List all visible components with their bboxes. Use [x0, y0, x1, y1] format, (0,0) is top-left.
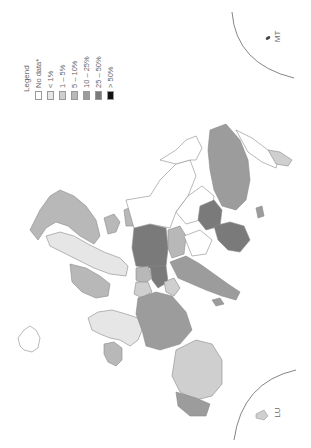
region-germany — [132, 224, 168, 268]
region-belarus-ukraine — [160, 136, 202, 164]
legend-label: 25 – 50% — [94, 56, 103, 88]
legend-swatch — [95, 91, 102, 100]
legend-swatch — [59, 91, 66, 100]
legend-item-lt1: < 1% — [46, 40, 58, 100]
legend: Legend No data* < 1% 1 – 5% 5 – 10% 10 –… — [22, 40, 122, 100]
legend-swatch — [71, 91, 78, 100]
legend-label: No data* — [34, 59, 43, 88]
legend-item-no-data: No data* — [34, 40, 46, 100]
region-italy — [170, 256, 240, 300]
legend-swatch — [107, 91, 114, 100]
region-bulgaria-greece — [214, 222, 250, 252]
lu-region — [256, 410, 268, 420]
legend-label: > 50% — [106, 67, 115, 88]
legend-item-10-25: 10 – 25% — [82, 40, 94, 100]
region-iceland — [18, 326, 40, 352]
region-czech — [168, 226, 186, 258]
legend-item-25-50: 25 – 50% — [94, 40, 106, 100]
legend-swatch — [35, 91, 42, 100]
mt-inset-arc — [232, 12, 294, 78]
inset-label-lu: LU — [273, 407, 282, 417]
region-france — [136, 292, 192, 350]
legend-item-5-10: 5 – 10% — [70, 40, 82, 100]
legend-label: < 1% — [46, 71, 55, 88]
region-cyprus — [256, 206, 264, 218]
legend-title: Legend — [22, 65, 31, 92]
legend-label: 10 – 25% — [82, 56, 91, 88]
legend-item-1-5: 1 – 5% — [58, 40, 70, 100]
region-spain — [172, 340, 222, 400]
legend-swatch — [47, 91, 54, 100]
legend-swatch — [83, 91, 90, 100]
legend-label: 5 – 10% — [70, 60, 79, 88]
region-uk — [88, 310, 142, 346]
region-denmark — [104, 214, 120, 234]
mt-island — [265, 35, 271, 40]
region-ireland — [104, 342, 122, 366]
region-netherlands — [136, 266, 152, 284]
region-austria-hungary — [184, 230, 212, 256]
lu-inset-arc — [234, 370, 296, 440]
region-crete — [212, 298, 224, 306]
legend-label: 1 – 5% — [58, 65, 67, 88]
inset-label-mt: MT — [273, 31, 282, 43]
legend-item-gt50: > 50% — [106, 40, 118, 100]
